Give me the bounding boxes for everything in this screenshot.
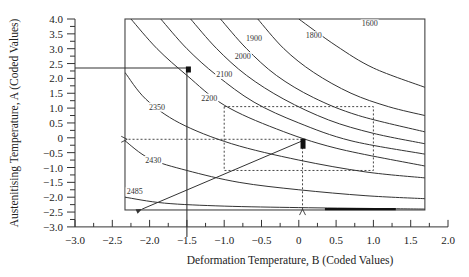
y-tick-label: 3.5 xyxy=(49,28,63,40)
y-tick-label: 2.0 xyxy=(49,72,63,84)
y-tick-label: 1.0 xyxy=(49,102,63,114)
contour-label-2350: 2350 xyxy=(149,103,165,112)
y-tick-label: 1.5 xyxy=(49,87,63,99)
contour-chart: 4.03.53.02.52.01.51.00.50−0.5−1.0−1.5−2.… xyxy=(0,0,469,277)
plot-frame xyxy=(125,19,425,210)
y-tick-label: 0 xyxy=(58,132,64,144)
y-tick-label: 2.5 xyxy=(49,58,63,70)
y-tick-label: −2.5 xyxy=(43,206,63,218)
contour-label-2100: 2100 xyxy=(216,70,232,79)
annotations: 160018001900200021002200235024302485 xyxy=(75,19,396,236)
x-tick-label: 0 xyxy=(296,234,302,246)
x-tick-label: 1.5 xyxy=(404,234,418,246)
axes: 4.03.53.02.52.01.51.00.50−0.5−1.0−1.5−2.… xyxy=(43,13,455,246)
solid-arrow xyxy=(142,141,302,209)
y-axis-title: Austenitising Temperature, A (Coded Valu… xyxy=(8,19,21,228)
x-tick-label: 2.0 xyxy=(441,234,455,246)
chart-canvas: 4.03.53.02.52.01.51.00.50−0.5−1.0−1.5−2.… xyxy=(0,0,469,277)
y-tick-label: −2.0 xyxy=(43,191,63,203)
y-tick-label: −0.5 xyxy=(43,147,63,159)
contour-label-2200: 2200 xyxy=(201,94,217,103)
optimum-marker-2 xyxy=(301,139,306,149)
y-tick-label: 3.0 xyxy=(49,43,63,55)
y-tick-label: 4.0 xyxy=(49,13,63,25)
contour-label-2000: 2000 xyxy=(235,52,251,61)
contour-label-2430: 2430 xyxy=(145,156,161,165)
y-tick-label: −1.5 xyxy=(43,176,63,188)
contour-label-1800: 1800 xyxy=(306,31,322,40)
x-tick-label: 0.5 xyxy=(329,234,343,246)
x-tick-label: −3.0 xyxy=(65,234,85,246)
contour-line-1800 xyxy=(258,19,425,116)
plot-box xyxy=(125,19,425,210)
contour-line-1600 xyxy=(299,19,425,87)
contour-label-2485: 2485 xyxy=(127,187,143,196)
contour-line-2485 xyxy=(125,197,425,209)
x-tick-label: −1.0 xyxy=(214,234,234,246)
contour-line-2200 xyxy=(131,19,425,166)
contour-line-2430 xyxy=(125,141,425,199)
x-tick-label: 1.0 xyxy=(367,234,381,246)
contour-line-2350 xyxy=(125,72,425,177)
y-tick-label: −3.0 xyxy=(43,221,63,233)
contour-label-1900: 1900 xyxy=(246,34,262,43)
y-tick-label: −1.0 xyxy=(43,162,63,174)
x-tick-label: −2.5 xyxy=(102,234,122,246)
optimum-marker-1 xyxy=(186,66,191,72)
contour-label-1600: 1600 xyxy=(362,19,378,28)
contour-lines xyxy=(125,19,425,209)
x-axis-title: Deformation Temperature, B (Coded Values… xyxy=(187,254,394,267)
y-tick-label: 0.5 xyxy=(49,117,63,129)
x-tick-label: −0.5 xyxy=(252,234,272,246)
x-tick-label: −2.0 xyxy=(140,234,160,246)
